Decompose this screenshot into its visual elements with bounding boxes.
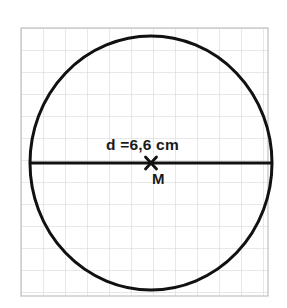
geometry-figure: d =6,6 cm M [0, 0, 287, 308]
center-point-label: M [152, 171, 165, 186]
diameter-label: d =6,6 cm [106, 137, 179, 153]
circle-diagram-canvas [0, 0, 287, 308]
